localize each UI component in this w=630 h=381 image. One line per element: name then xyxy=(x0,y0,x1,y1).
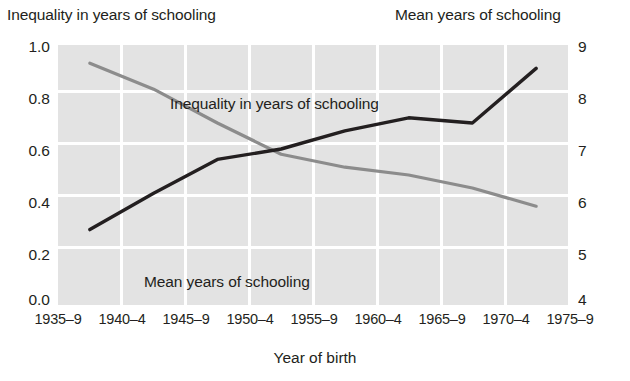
line-inequality-in-years-of-schooling xyxy=(90,63,536,206)
right-axis-tick-5: 4 xyxy=(578,291,624,309)
x-axis-tick-1: 1940–4 xyxy=(87,311,157,327)
annotation-mean-label: Mean years of schooling xyxy=(144,273,310,291)
right-axis-tick-2: 7 xyxy=(578,142,624,160)
left-axis-tick-0: 1.0 xyxy=(4,38,50,56)
x-axis-title: Year of birth xyxy=(0,349,630,367)
x-axis-tick-4: 1955–9 xyxy=(279,311,349,327)
x-axis-tick-7: 1970–4 xyxy=(471,311,541,327)
right-axis-tick-3: 6 xyxy=(578,194,624,212)
x-axis-tick-0: 1935–9 xyxy=(23,311,93,327)
right-axis-tick-1: 8 xyxy=(578,90,624,108)
right-axis-tick-4: 5 xyxy=(578,246,624,264)
annotation-inequality-label: Inequality in years of schooling xyxy=(170,95,379,113)
series-plot xyxy=(58,45,568,305)
plot-area: Inequality in years of schooling Mean ye… xyxy=(58,45,568,305)
left-axis-tick-3: 0.4 xyxy=(4,194,50,212)
x-axis-tick-5: 1960–4 xyxy=(343,311,413,327)
left-axis-tick-5: 0.0 xyxy=(4,291,50,309)
x-axis-tick-3: 1950–4 xyxy=(215,311,285,327)
chart-figure: Inequality in years of schooling Mean ye… xyxy=(0,0,630,381)
x-axis-tick-8: 1975–9 xyxy=(535,311,605,327)
right-axis-tick-0: 9 xyxy=(578,38,624,56)
left-axis-tick-1: 0.8 xyxy=(4,90,50,108)
left-axis-tick-2: 0.6 xyxy=(4,142,50,160)
x-axis-tick-2: 1945–9 xyxy=(151,311,221,327)
x-axis-tick-6: 1965–9 xyxy=(407,311,477,327)
left-axis-tick-4: 0.2 xyxy=(4,246,50,264)
left-axis-title: Inequality in years of schooling xyxy=(7,6,216,24)
right-axis-title: Mean years of schooling xyxy=(395,6,561,24)
